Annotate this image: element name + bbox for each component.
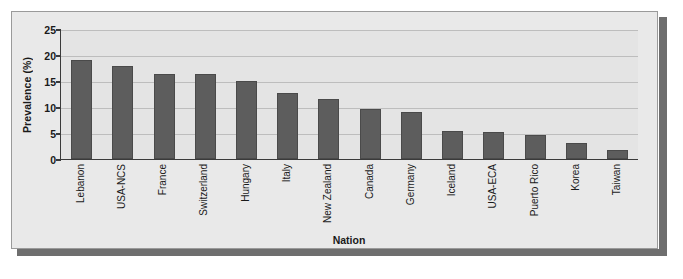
- bar-slot: [350, 30, 391, 159]
- y-axis-tick-label: 15: [44, 77, 56, 88]
- x-label-slot: France: [143, 162, 184, 234]
- x-label-slot: Taiwan: [597, 162, 638, 234]
- bar-slot: [308, 30, 349, 159]
- bar[interactable]: [442, 131, 463, 159]
- bar[interactable]: [483, 132, 504, 159]
- y-axis-tick-mark: [56, 159, 61, 161]
- x-axis-tick-label: USA-NCS: [117, 164, 127, 209]
- bar-slot: [102, 30, 143, 159]
- bar[interactable]: [71, 60, 92, 159]
- x-label-slot: Hungary: [225, 162, 266, 234]
- bar-slot: [226, 30, 267, 159]
- bar[interactable]: [607, 150, 628, 159]
- bar-slot: [391, 30, 432, 159]
- bar[interactable]: [195, 74, 216, 159]
- plot-area: [60, 30, 638, 160]
- bar[interactable]: [360, 109, 381, 159]
- bar-slot: [432, 30, 473, 159]
- x-axis-tick-label: Korea: [571, 164, 581, 191]
- x-axis-tick-label: Hungary: [241, 164, 251, 202]
- x-axis-tick-label: Iceland: [447, 164, 457, 196]
- bar[interactable]: [154, 74, 175, 159]
- x-label-slot: Italy: [266, 162, 307, 234]
- y-axis-tick-label: 25: [44, 25, 56, 36]
- y-axis-tick-label: 20: [44, 51, 56, 62]
- chart-figure-panel: Prevalence (%) 0510152025 LebanonUSA-NCS…: [11, 11, 658, 249]
- bars-layer: [61, 30, 638, 159]
- x-label-slot: Korea: [555, 162, 596, 234]
- x-label-slot: USA-ECA: [473, 162, 514, 234]
- x-axis-tick-label: USA-ECA: [488, 164, 498, 208]
- bar-slot: [597, 30, 638, 159]
- bar-slot: [267, 30, 308, 159]
- bar-slot: [185, 30, 226, 159]
- x-axis-tick-label: Germany: [406, 164, 416, 205]
- x-axis-tick-label: Canada: [365, 164, 375, 199]
- x-label-slot: Switzerland: [184, 162, 225, 234]
- bar[interactable]: [566, 143, 587, 159]
- x-label-slot: Germany: [390, 162, 431, 234]
- bar-slot: [473, 30, 514, 159]
- y-axis-tick-label: 10: [44, 103, 56, 114]
- x-label-slot: Canada: [349, 162, 390, 234]
- x-axis-tick-label: Switzerland: [199, 164, 209, 216]
- x-axis-title: Nation: [60, 234, 638, 246]
- bar[interactable]: [401, 112, 422, 159]
- x-axis-tick-label: France: [158, 164, 168, 195]
- bar[interactable]: [525, 135, 546, 159]
- bar-chart: Prevalence (%) 0510152025 LebanonUSA-NCS…: [12, 12, 657, 248]
- x-label-slot: Lebanon: [60, 162, 101, 234]
- x-axis-tick-label: Italy: [282, 164, 292, 182]
- x-label-slot: New Zealand: [308, 162, 349, 234]
- y-axis-tick-labels: 0510152025: [34, 30, 56, 160]
- x-axis-tick-labels: LebanonUSA-NCSFranceSwitzerlandHungaryIt…: [60, 162, 638, 234]
- bar-slot: [556, 30, 597, 159]
- figure-shadow-bottom: [17, 249, 667, 256]
- x-axis-tick-label: Taiwan: [612, 164, 622, 195]
- bar-slot: [61, 30, 102, 159]
- x-label-slot: Iceland: [432, 162, 473, 234]
- x-axis-tick-label: Puerto Rico: [530, 164, 540, 216]
- x-axis-tick-label: New Zealand: [323, 164, 333, 223]
- bar[interactable]: [318, 99, 339, 159]
- bar[interactable]: [277, 93, 298, 159]
- bar[interactable]: [112, 66, 133, 159]
- bar[interactable]: [236, 81, 257, 159]
- x-label-slot: Puerto Rico: [514, 162, 555, 234]
- bar-slot: [514, 30, 555, 159]
- x-label-slot: USA-NCS: [101, 162, 142, 234]
- x-axis-tick-label: Lebanon: [76, 164, 86, 203]
- bar-slot: [143, 30, 184, 159]
- figure-shadow-right: [659, 17, 667, 255]
